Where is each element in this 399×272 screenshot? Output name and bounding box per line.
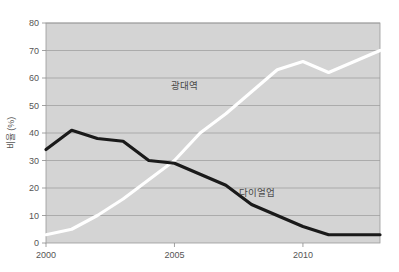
series-label-dialup: 다이얼업 (239, 187, 275, 198)
x-tick-label-2005: 2005 (164, 250, 184, 260)
y-axis-title: 비율 (%) (6, 117, 16, 150)
y-tick-label-10: 10 (29, 211, 39, 221)
line-chart: 01020304050607080 200020052010 광대역다이얼업 비… (0, 0, 399, 272)
y-tick-label-60: 60 (29, 73, 39, 83)
y-tick-label-20: 20 (29, 183, 39, 193)
chart-figure: 01020304050607080 200020052010 광대역다이얼업 비… (0, 0, 399, 272)
series-label-broadband: 광대역 (171, 80, 198, 91)
y-tick-label-0: 0 (34, 238, 39, 248)
y-tick-label-30: 30 (29, 156, 39, 166)
x-tick-label-2010: 2010 (293, 250, 313, 260)
y-tick-label-50: 50 (29, 101, 39, 111)
y-tick-label-70: 70 (29, 46, 39, 56)
x-tick-label-2000: 2000 (36, 250, 56, 260)
y-tick-label-40: 40 (29, 128, 39, 138)
y-tick-label-80: 80 (29, 18, 39, 28)
